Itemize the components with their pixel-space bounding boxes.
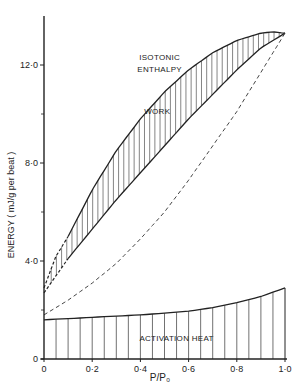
y-tick-label: 8·0 — [25, 158, 38, 168]
x-tick-label: 0 — [41, 364, 46, 374]
x-tick-label: 0·6 — [182, 364, 195, 374]
y-axis-label: ENERGY ( mJ/g per beat ) — [6, 152, 16, 258]
x-tick-label: 0·2 — [86, 364, 99, 374]
isotonic-enthalpy-curve — [68, 32, 285, 237]
x-axis-label: P/P₀ — [150, 372, 170, 383]
y-tick-label: 0 — [33, 354, 38, 364]
y-tick-label: 4·0 — [25, 256, 38, 266]
energy-chart: 04·08·012·000·20·40·60·81·0 ISOTONICENTH… — [0, 0, 304, 390]
y-tick-label: 12·0 — [20, 60, 38, 70]
annotation-label: ISOTONIC — [139, 53, 180, 62]
x-tick-label: 0·4 — [134, 364, 147, 374]
annotation-label: ACTIVATION HEAT — [139, 334, 213, 343]
annotation-label: WORK — [144, 107, 170, 116]
x-tick-label: 1·0 — [278, 364, 291, 374]
dashed-curve — [44, 33, 285, 315]
annotation-label: ENTHALPY — [137, 65, 182, 74]
x-tick-label: 0·8 — [230, 364, 243, 374]
